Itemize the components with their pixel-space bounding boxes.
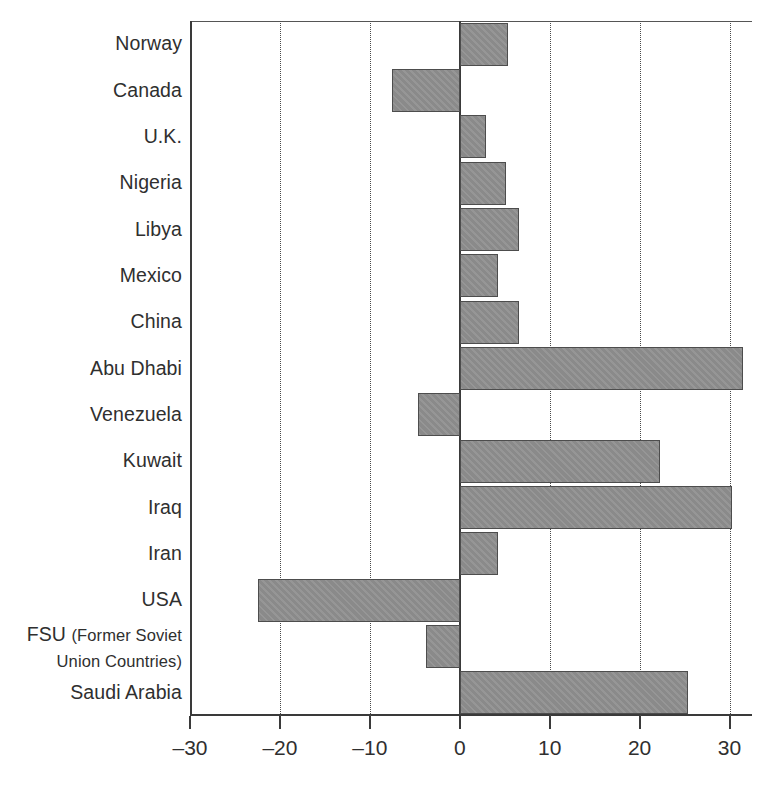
x-tick-mark bbox=[639, 716, 641, 729]
x-axis: –30–20–100102030 bbox=[0, 0, 776, 790]
x-tick-label: 0 bbox=[415, 736, 505, 760]
bar-chart: NorwayCanadaU.K.NigeriaLibyaMexicoChinaA… bbox=[0, 0, 776, 790]
x-tick-label: 20 bbox=[595, 736, 685, 760]
x-tick-mark bbox=[279, 716, 281, 729]
x-tick-mark bbox=[189, 716, 191, 729]
x-tick-label: 30 bbox=[685, 736, 775, 760]
x-tick-mark bbox=[549, 716, 551, 729]
x-tick-label: –20 bbox=[235, 736, 325, 760]
x-tick-mark bbox=[369, 716, 371, 729]
x-tick-label: –30 bbox=[145, 736, 235, 760]
x-tick-mark bbox=[729, 716, 731, 729]
x-tick-mark bbox=[459, 716, 461, 729]
x-tick-label: 10 bbox=[505, 736, 595, 760]
x-tick-label: –10 bbox=[325, 736, 415, 760]
